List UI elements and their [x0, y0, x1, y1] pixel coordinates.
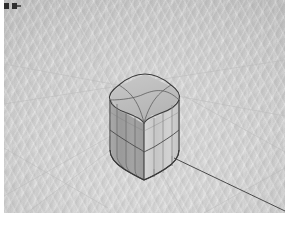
ground-guide-4 — [184, 96, 285, 152]
scene-canvas[interactable] — [4, 0, 285, 213]
ground-guide-2 — [4, 148, 108, 208]
select-tool-marker-icon[interactable] — [4, 3, 9, 9]
toolbar-marks[interactable] — [0, 0, 40, 14]
3d-viewport[interactable] — [4, 0, 285, 213]
rounded-box-model[interactable] — [109, 74, 180, 180]
toolbar-marker-tail-icon — [17, 5, 21, 7]
inference-guide-line — [174, 158, 285, 211]
ground-guide-6 — [204, 168, 285, 213]
app-window — [0, 0, 293, 228]
